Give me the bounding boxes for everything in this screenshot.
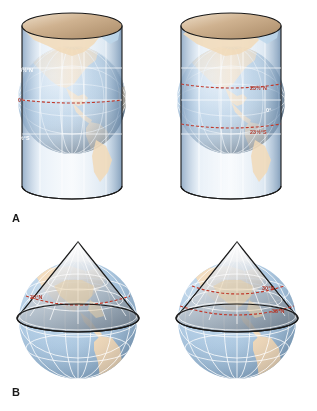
cylinder-top-cap: [22, 13, 122, 39]
lat-label-0-cyl-secant: 0°: [266, 107, 271, 113]
projection-figure: 23½°N 0° 23½°S: [0, 0, 317, 411]
lat-label-23s-cyl-secant: 23½°S: [250, 129, 267, 135]
lat-label-23n-cyl-tangent: 23½°N: [16, 67, 33, 73]
panel-letter-a: A: [12, 212, 20, 224]
lat-label-23n-cyl-secant: 23½°N: [250, 85, 267, 91]
lat-label-0-cyl-tangent: 0°: [18, 97, 23, 103]
lat-label-30n-cone-secant: 30°N: [262, 285, 274, 291]
tangent-cylinder: 23½°N 0° 23½°S: [13, 13, 130, 199]
lat-label-30n-cone-tangent: 30°N: [30, 294, 42, 300]
panel-a-cylindrical: 23½°N 0° 23½°S: [12, 13, 285, 224]
lat-label-23s-cyl-tangent: 23½°S: [13, 135, 30, 141]
lat-label-38n-cone-secant: 38°N: [272, 308, 284, 314]
cylinder-surface-tangent: [22, 21, 122, 199]
panel-letter-b: B: [12, 386, 20, 398]
tangent-cone: 30°N: [17, 242, 139, 388]
secant-cone: 30°N 38°N: [176, 242, 298, 388]
cylinder-top-cap: [181, 13, 281, 39]
panel-b-conic: 30°N: [12, 242, 298, 398]
figure-canvas: 23½°N 0° 23½°S: [0, 0, 317, 411]
secant-cylinder: 23½°N 0° 23½°S: [177, 13, 285, 199]
